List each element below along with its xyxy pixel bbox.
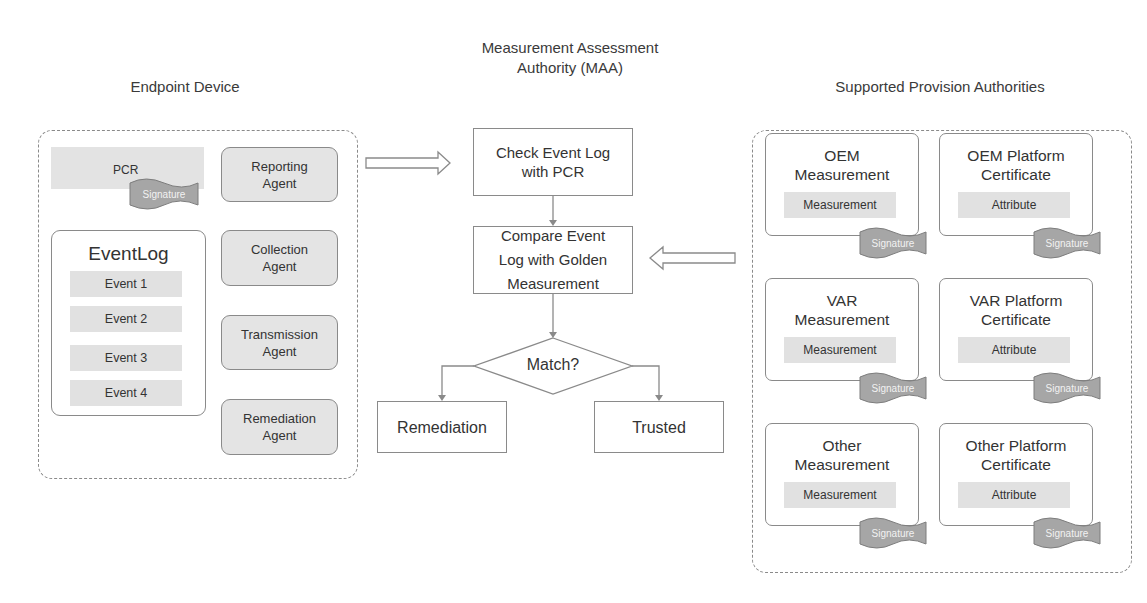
other-measurement-card: Other Measurement Measurement bbox=[765, 423, 919, 526]
oem-platform-certificate-card: OEM Platform Certificate Attribute bbox=[939, 133, 1093, 236]
pcr-signature-label: Signature bbox=[128, 189, 200, 200]
agent-label-line1: Reporting bbox=[251, 158, 307, 175]
pcr-label: PCR bbox=[113, 163, 138, 177]
agent-label-line2: Agent bbox=[241, 343, 318, 360]
agent-label-line2: Agent bbox=[251, 175, 307, 192]
decision-label: Match? bbox=[503, 356, 603, 374]
card-inner-attribute: Attribute bbox=[958, 192, 1070, 218]
agent-label-line1: Remediation bbox=[243, 410, 316, 427]
agent-label-line1: Transmission bbox=[241, 326, 318, 343]
card-title-line2: Certificate bbox=[940, 310, 1092, 329]
card-title-line2: Certificate bbox=[940, 455, 1092, 474]
card-signature: Signature bbox=[858, 371, 928, 405]
signature-label: Signature bbox=[1032, 383, 1102, 394]
signature-label: Signature bbox=[1032, 238, 1102, 249]
card-title-line1: OEM Platform bbox=[940, 146, 1092, 165]
maa-heading-line1: Measurement Assessment bbox=[460, 38, 680, 58]
var-measurement-card: VAR Measurement Measurement bbox=[765, 278, 919, 381]
eventlog-container: EventLog Event 1 Event 2 Event 3 Event 4 bbox=[51, 230, 206, 416]
compare-line1: Compare Event bbox=[499, 224, 607, 248]
compare-line3: Measurement bbox=[499, 272, 607, 296]
card-signature: Signature bbox=[1032, 371, 1102, 405]
check-line1: Check Event Log bbox=[496, 143, 610, 162]
card-title-line1: VAR Platform bbox=[940, 291, 1092, 310]
event-item: Event 1 bbox=[70, 271, 182, 297]
var-platform-certificate-card: VAR Platform Certificate Attribute bbox=[939, 278, 1093, 381]
trusted-box: Trusted bbox=[594, 401, 724, 453]
reporting-agent: ReportingAgent bbox=[221, 147, 338, 202]
provision-authorities-heading: Supported Provision Authorities bbox=[790, 77, 1090, 97]
card-signature: Signature bbox=[858, 516, 928, 550]
card-inner-measurement: Measurement bbox=[784, 337, 896, 363]
card-title-line2: Measurement bbox=[766, 310, 918, 329]
card-title-line1: Other bbox=[766, 436, 918, 455]
signature-label: Signature bbox=[858, 238, 928, 249]
card-inner-attribute: Attribute bbox=[958, 482, 1070, 508]
card-title-line2: Measurement bbox=[766, 165, 918, 184]
event-item: Event 3 bbox=[70, 345, 182, 371]
arrow-right-icon bbox=[366, 152, 450, 174]
arrow-left-icon bbox=[650, 247, 735, 269]
card-title-line1: VAR bbox=[766, 291, 918, 310]
remediation-agent: RemediationAgent bbox=[221, 399, 338, 455]
agent-label-line2: Agent bbox=[243, 427, 316, 444]
remediation-box: Remediation bbox=[377, 401, 507, 453]
oem-measurement-card: OEM Measurement Measurement bbox=[765, 133, 919, 236]
card-inner-measurement: Measurement bbox=[784, 192, 896, 218]
signature-label: Signature bbox=[858, 528, 928, 539]
agent-label-line1: Collection bbox=[251, 241, 308, 258]
other-platform-certificate-card: Other Platform Certificate Attribute bbox=[939, 423, 1093, 526]
card-signature: Signature bbox=[1032, 516, 1102, 550]
compare-event-log-box: Compare EventLog with GoldenMeasurement bbox=[473, 226, 633, 294]
check-event-log-box: Check Event Logwith PCR bbox=[473, 128, 633, 196]
card-signature: Signature bbox=[858, 226, 928, 260]
event-item: Event 2 bbox=[70, 306, 182, 332]
card-title-line2: Certificate bbox=[940, 165, 1092, 184]
collection-agent: CollectionAgent bbox=[221, 230, 338, 286]
card-signature: Signature bbox=[1032, 226, 1102, 260]
check-line2: with PCR bbox=[496, 162, 610, 181]
eventlog-title: EventLog bbox=[52, 243, 205, 265]
maa-heading-line2: Authority (MAA) bbox=[460, 58, 680, 78]
endpoint-device-heading: Endpoint Device bbox=[95, 77, 275, 97]
signature-label: Signature bbox=[858, 383, 928, 394]
card-title-line1: Other Platform bbox=[940, 436, 1092, 455]
compare-line2: Log with Golden bbox=[499, 248, 607, 272]
signature-label: Signature bbox=[1032, 528, 1102, 539]
card-title-line1: OEM bbox=[766, 146, 918, 165]
agent-label-line2: Agent bbox=[251, 258, 308, 275]
card-inner-measurement: Measurement bbox=[784, 482, 896, 508]
transmission-agent: TransmissionAgent bbox=[221, 315, 338, 370]
maa-heading: Measurement Assessment Authority (MAA) bbox=[460, 38, 680, 78]
event-item: Event 4 bbox=[70, 380, 182, 406]
card-inner-attribute: Attribute bbox=[958, 337, 1070, 363]
pcr-signature: Signature bbox=[128, 177, 200, 211]
card-title-line2: Measurement bbox=[766, 455, 918, 474]
